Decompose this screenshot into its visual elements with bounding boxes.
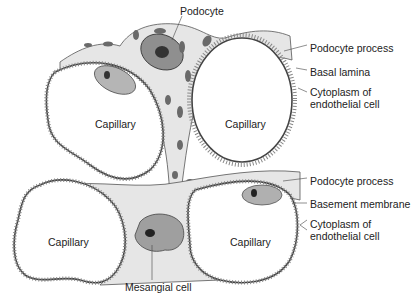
label-bottom-cytoplasm-2: endothelial cell bbox=[310, 230, 379, 242]
podocyte-nucleolus bbox=[155, 46, 169, 58]
label-top-cytoplasm-1: Cytoplasm of bbox=[310, 86, 371, 98]
capillary-label-bottom-right: Capillary bbox=[230, 236, 271, 248]
label-bottom-podocyte-process: Podocyte process bbox=[310, 175, 393, 187]
capillary-label-top-right: Capillary bbox=[225, 118, 266, 130]
label-top-cytoplasm-2: endothelial cell bbox=[310, 98, 379, 110]
label-bottom-cytoplasm-1: Cytoplasm of bbox=[310, 218, 371, 230]
label-basal-lamina: Basal lamina bbox=[310, 66, 370, 78]
capillary-top-right bbox=[192, 38, 292, 162]
label-mesangial-cell: Mesangial cell bbox=[125, 281, 192, 293]
label-podocyte: Podocyte bbox=[180, 5, 224, 17]
podocyte-nucleus-bottom bbox=[242, 185, 282, 205]
capillary-label-bottom-left: Capillary bbox=[48, 236, 89, 248]
label-top-podocyte-process: Podocyte process bbox=[310, 42, 393, 54]
capillary-label-top-left: Capillary bbox=[95, 118, 136, 130]
label-basement-membrane: Basement membrane bbox=[310, 198, 410, 210]
mesangial-nucleus bbox=[135, 214, 184, 251]
